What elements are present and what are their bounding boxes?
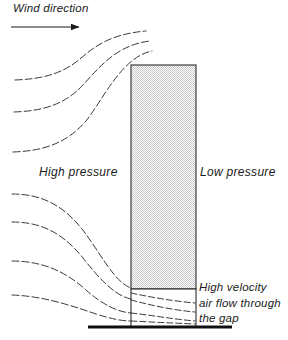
- low-pressure-label: Low pressure: [200, 165, 276, 179]
- upper-streamline-1: [15, 31, 146, 80]
- lower-streamline-2: [12, 222, 131, 299]
- gap-airflow-label-line-2: air flow through: [199, 296, 281, 312]
- gap-airflow-label-line-1: High velocity: [199, 280, 281, 296]
- upper-streamline-2: [14, 41, 150, 112]
- gap-airflow-label: High velocity air flow through the gap: [199, 280, 281, 327]
- lower-streamline-3: [12, 261, 131, 313]
- high-pressure-label: High pressure: [39, 165, 118, 179]
- lower-streamline-1: [12, 194, 131, 288]
- building-tower: [131, 65, 196, 289]
- lower-streamlines: [12, 194, 131, 321]
- wind-direction-label: Wind direction: [13, 2, 89, 14]
- gap-airflow-label-line-3: the gap: [199, 311, 281, 327]
